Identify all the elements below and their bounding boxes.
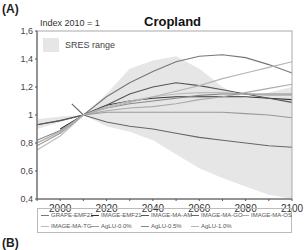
legend-swatch	[191, 215, 199, 216]
legend-item: GRAPE-EMF21	[41, 212, 93, 218]
legend-label: AgLU-1.0%	[201, 223, 232, 229]
legend-swatch	[91, 226, 99, 227]
y-tick-label: 1,6	[20, 26, 33, 36]
y-axis-ticks: 0,40,60,811,21,41,6	[20, 26, 37, 204]
legend-item: AgLU-1.0%	[191, 223, 232, 229]
legend-item: IMAGE-MA-AM	[141, 212, 192, 218]
legend-item: IMAGE-MA-GO	[191, 212, 243, 218]
legend-swatch	[41, 215, 49, 216]
legend-label: AgLU-0.5%	[151, 223, 182, 229]
y-tick-label: 0,6	[20, 166, 33, 176]
legend-label: IMAGE-MA-TG	[51, 223, 92, 229]
legend-item: IMAGE-MA-TG	[41, 223, 92, 229]
legend-label: IMAGE-MA-AM	[151, 212, 192, 218]
legend-label: IMAGE-EMF21	[101, 212, 142, 218]
sres-range-band	[37, 56, 292, 199]
y-tick-label: 1,4	[20, 54, 33, 64]
legend-item: IMAGE-EMF21	[91, 212, 142, 218]
legend-swatch	[191, 226, 199, 227]
sres-band-area	[37, 56, 292, 199]
y-tick-label: 1,2	[20, 82, 33, 92]
legend-swatch	[91, 215, 99, 216]
legend-item: AgLU-0.0%	[91, 223, 132, 229]
y-tick-label: 0,4	[20, 194, 33, 204]
sres-legend: SRES range	[43, 38, 115, 52]
y-tick-label: 0,8	[20, 138, 33, 148]
legend-item: AgLU-0.5%	[141, 223, 182, 229]
chart-legend: GRAPE-EMF21IMAGE-EMF21IMAGE-MA-AMIMAGE-M…	[37, 208, 292, 233]
legend-swatch	[141, 215, 149, 216]
legend-item: IMAGE-MA-OS	[241, 212, 292, 218]
panel-label-b: (B)	[2, 236, 19, 250]
sres-legend-label: SRES range	[65, 40, 115, 50]
legend-label: IMAGE-MA-OS	[251, 212, 292, 218]
legend-swatch	[141, 226, 149, 227]
sres-swatch	[43, 38, 59, 52]
legend-swatch	[241, 215, 249, 216]
legend-label: GRAPE-EMF21	[51, 212, 93, 218]
legend-label: IMAGE-MA-GO	[201, 212, 243, 218]
legend-swatch	[41, 226, 49, 227]
y-tick-label: 1	[28, 110, 33, 120]
legend-label: AgLU-0.0%	[101, 223, 132, 229]
